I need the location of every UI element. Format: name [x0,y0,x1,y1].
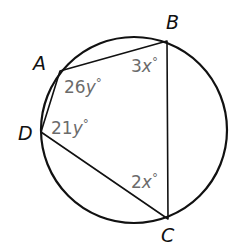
inscribed-quadrilateral-diagram: A B C D 26y° 3x° 2x° 21y° [0,0,239,250]
vertex-label-a: A [31,52,46,74]
vertex-label-b: B [166,11,179,33]
vertex-label-c: C [161,224,175,246]
angle-label-d: 21y° [51,117,89,138]
angle-label-a: 26y° [64,76,102,97]
angle-label-c: 2x° [131,171,158,192]
angle-label-b: 3x° [131,55,158,76]
vertex-label-d: D [18,122,33,144]
